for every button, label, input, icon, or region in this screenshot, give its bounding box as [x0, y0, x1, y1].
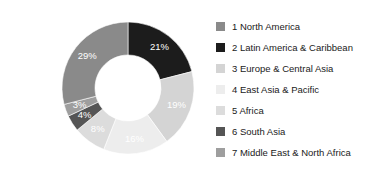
legend-swatch-icon: [216, 127, 225, 136]
legend-swatch-icon: [216, 148, 225, 157]
donut-slice[interactable]: [62, 22, 128, 104]
slice-value-label: 4%: [78, 109, 92, 120]
donut-chart-svg: 21%19%16%8%4%3%29%: [62, 22, 194, 154]
slice-value-label: 8%: [91, 123, 105, 134]
legend-item[interactable]: 4 East Asia & Pacific: [216, 79, 374, 100]
legend-item-label: 5 Africa: [232, 105, 264, 116]
legend-item[interactable]: 1 North America: [216, 16, 374, 37]
legend-item[interactable]: 2 Latin America & Caribbean: [216, 37, 374, 58]
slice-value-label: 3%: [73, 99, 87, 110]
legend-swatch-icon: [216, 43, 225, 52]
legend-item-label: 3 Europe & Central Asia: [232, 63, 333, 74]
legend-swatch-icon: [216, 85, 225, 94]
slice-value-label: 21%: [150, 41, 170, 52]
donut-chart-plot-area: 21%19%16%8%4%3%29%: [62, 22, 194, 154]
legend-item-label: 4 East Asia & Pacific: [232, 84, 319, 95]
legend-item-label: 7 Middle East & North Africa: [232, 147, 351, 158]
slice-value-label: 19%: [167, 99, 187, 110]
donut-chart-figure: 21%19%16%8%4%3%29% 1 North America2 Lati…: [0, 0, 374, 169]
legend-item[interactable]: 5 Africa: [216, 100, 374, 121]
legend-swatch-icon: [216, 106, 225, 115]
legend-item[interactable]: 7 Middle East & North Africa: [216, 142, 374, 163]
legend-swatch-icon: [216, 64, 225, 73]
slice-value-label: 16%: [125, 133, 145, 144]
legend-item[interactable]: 6 South Asia: [216, 121, 374, 142]
legend-swatch-icon: [216, 22, 225, 31]
legend-item[interactable]: 3 Europe & Central Asia: [216, 58, 374, 79]
legend-item-label: 2 Latin America & Caribbean: [232, 42, 353, 53]
legend-item-label: 1 North America: [232, 21, 300, 32]
slice-value-label: 29%: [78, 50, 98, 61]
legend-item-label: 6 South Asia: [232, 126, 285, 137]
chart-legend: 1 North America2 Latin America & Caribbe…: [216, 16, 374, 163]
